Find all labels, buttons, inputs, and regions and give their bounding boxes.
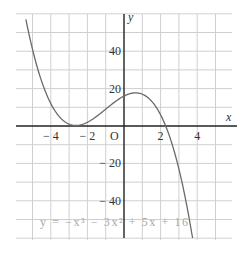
y-tick-label: 40 — [109, 44, 121, 58]
y-tick-label: − 20 — [99, 156, 121, 170]
x-tick-label: 2 — [158, 129, 164, 143]
axes — [16, 14, 237, 238]
y-axis-label: y — [127, 10, 134, 24]
x-tick-label: − 4 — [43, 129, 59, 143]
equation-annotation: y = −x³ − 3x² + 5x + 16 — [40, 215, 188, 229]
y-tick-label: 20 — [109, 82, 121, 96]
x-tick-label: − 2 — [80, 129, 96, 143]
origin-label: O — [110, 129, 119, 143]
x-axis-label: x — [225, 110, 232, 124]
x-tick-label: 4 — [194, 129, 200, 143]
y-tick-label: − 40 — [99, 194, 121, 208]
cubic-function-graph: − 4− 2244020− 20− 40 x y O y = −x³ − 3x²… — [0, 0, 245, 255]
